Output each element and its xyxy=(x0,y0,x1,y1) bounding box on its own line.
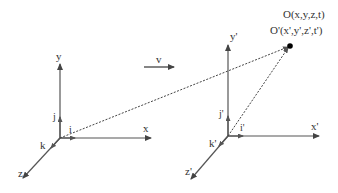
label-i: i xyxy=(69,125,72,135)
label-z-prime: z' xyxy=(185,166,192,177)
position-vector-s-prime xyxy=(228,48,288,136)
unit-k-arrow xyxy=(51,138,60,148)
frame-s-prime xyxy=(191,45,319,179)
label-x: x xyxy=(143,123,149,134)
label-j-prime: j' xyxy=(219,109,224,119)
label-i-prime: i' xyxy=(240,123,245,133)
label-event-s-prime: O'(x',y',z',t') xyxy=(270,25,322,36)
unit-k-prime-arrow xyxy=(219,136,228,146)
label-y: y xyxy=(56,51,62,62)
label-velocity: v xyxy=(156,54,162,65)
label-z: z xyxy=(18,168,23,179)
label-y-prime: y' xyxy=(230,31,237,42)
label-k: k xyxy=(40,140,46,151)
label-j: j xyxy=(53,112,56,122)
frame-s xyxy=(23,64,151,178)
label-event-s: O(x,y,z,t) xyxy=(283,9,325,20)
event-point xyxy=(287,43,293,49)
position-vector-s xyxy=(60,47,288,138)
label-x-prime: x' xyxy=(311,121,318,132)
label-k-prime: k' xyxy=(209,138,216,149)
